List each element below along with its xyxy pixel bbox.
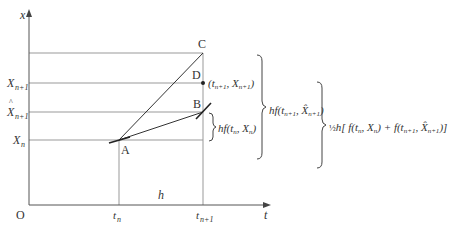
x-tick-tn1: t n+1 [196,209,213,224]
x-axis-label: t [264,208,268,222]
svg-text:n+1: n+1 [200,215,213,224]
point-d-label: D [192,68,201,82]
point-d-dot [201,81,205,85]
slope-lines [119,53,203,140]
svg-text:X: X [6,76,15,90]
brace-outer-icon [317,82,326,168]
line-a-to-b [119,112,203,140]
origin-label: O [16,208,25,222]
brace-outer-label: ½h[ f(tn, Xn) + f(tn+1, X̂n+1)] [329,121,447,135]
point-b-label: B [193,97,201,111]
hat-icon: ^ [9,98,13,107]
y-tick-xn: X n [12,133,25,149]
y-axis-label: x [19,8,26,22]
y-axis-arrow-icon [26,9,32,17]
svg-text:n: n [21,140,25,149]
brace-small-label: hf(tn, Xn) [218,122,257,136]
brace-large-label: hf(tn+1, X̂n+1) [269,104,324,118]
point-a-label: A [121,143,130,157]
step-h-label: h [158,188,164,202]
svg-text:n+1: n+1 [15,112,28,121]
svg-text:X: X [6,105,15,119]
y-tick-xn1: X n+1 [6,76,28,92]
line-a-to-c [119,53,203,140]
brace-large-icon [257,55,266,159]
svg-text:n: n [117,215,121,224]
svg-text:X: X [12,133,21,147]
y-tick-xhat: X ^ n+1 [6,98,28,121]
brace-small-icon [209,113,216,141]
guide-lines [29,53,203,205]
axes [29,14,266,205]
diagram-canvas: x t O X n+1 X ^ n+1 X n t n t n+1 h C D … [0,0,456,227]
point-c-label: C [198,37,206,51]
point-d-coordinate: (tn+1, Xn+1) [208,77,254,91]
svg-text:n+1: n+1 [15,83,28,92]
x-tick-tn: t n [113,209,121,224]
